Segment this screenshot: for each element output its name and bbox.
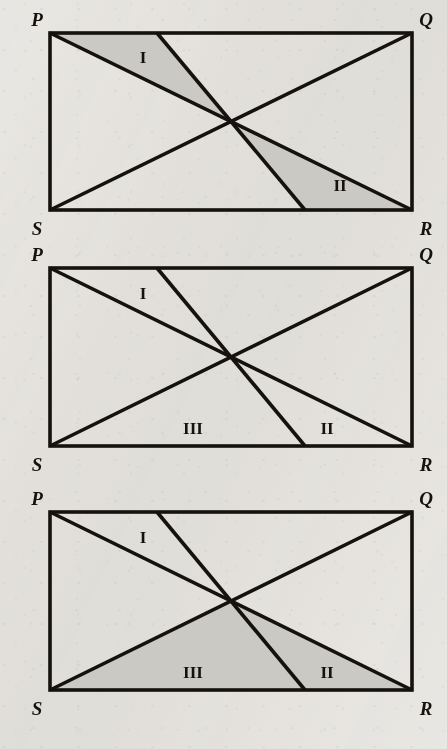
figure-3-vertex-label-q: Q [419, 488, 433, 509]
figure-3-region-label-iii: III [183, 663, 203, 682]
figure-1-region-label-i: I [140, 48, 147, 67]
figure-3-region-label-i: I [140, 528, 147, 547]
figure-1-vertex-label-q: Q [419, 9, 433, 30]
figure-1: PQSRIII [0, 0, 447, 244]
figure-2-vertex-label-s: S [32, 454, 43, 475]
figure-1-region-label-ii: II [333, 176, 347, 195]
figure-1-canvas: PQSRIII [0, 0, 447, 244]
figure-2-region-label-iii: III [183, 419, 203, 438]
figure-1-cevian-line [157, 33, 305, 210]
figure-3-canvas: PQSRIIIIII [0, 478, 447, 724]
figure-3-vertex-label-s: S [32, 698, 43, 719]
figure-2-region-label-ii: II [320, 419, 334, 438]
figure-2-cevian-line [157, 268, 305, 446]
figure-1-vertex-label-p: P [30, 9, 43, 30]
figure-2-vertex-label-q: Q [419, 244, 433, 265]
figure-2-canvas: PQSRIIIIII [0, 234, 447, 480]
figure-3-region-label-ii: II [320, 663, 334, 682]
figure-2: PQSRIIIIII [0, 234, 447, 480]
figure-2-vertex-label-p: P [30, 244, 43, 265]
figure-3-vertex-label-r: R [419, 698, 433, 719]
figure-2-region-label-i: I [140, 284, 147, 303]
figure-3-vertex-label-p: P [30, 488, 43, 509]
figure-3: PQSRIIIIII [0, 478, 447, 724]
figure-2-vertex-label-r: R [419, 454, 433, 475]
